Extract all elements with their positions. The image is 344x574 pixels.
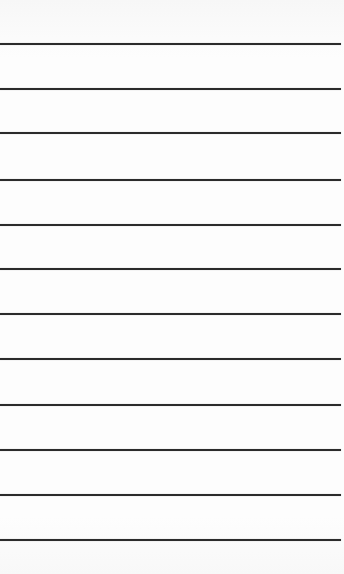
ruled-line [0,268,341,270]
ruled-line [0,449,341,451]
ruled-line [0,132,341,134]
ruled-line [0,404,341,406]
ruled-line [0,88,341,90]
ruled-line [0,179,341,181]
ruled-line [0,224,341,226]
lined-paper [0,0,344,574]
ruled-line [0,43,341,45]
ruled-line [0,494,341,496]
ruled-line [0,313,341,315]
ruled-line [0,539,341,541]
ruled-line [0,358,341,360]
